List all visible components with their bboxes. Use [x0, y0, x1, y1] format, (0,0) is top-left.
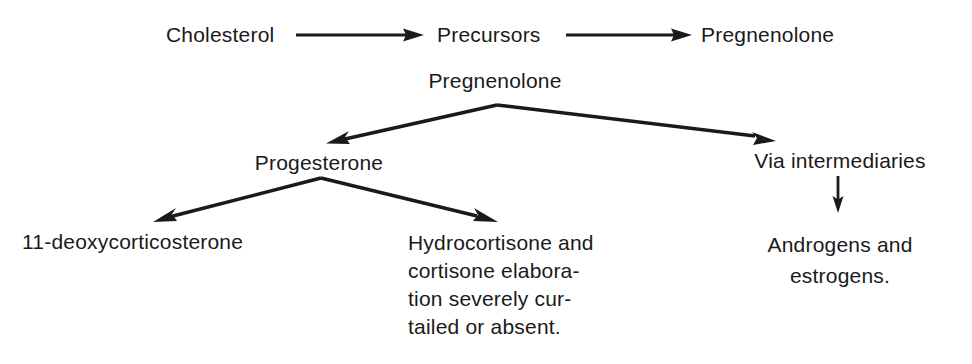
- steroidogenesis-diagram: Cholesterol Precursors Pregnenolone Preg…: [0, 0, 972, 364]
- hydrocortisone-line-2: cortisone elabora-: [408, 257, 594, 285]
- arrow-progesterone-to-deoxycorticosterone: [153, 178, 321, 222]
- arrow-precursors-to-pregnenolone: [566, 29, 692, 42]
- node-cholesterol[interactable]: Cholesterol: [166, 24, 274, 45]
- arrow-progesterone-to-hydrocortisone: [321, 178, 498, 222]
- androgens-line-2: estrogens.: [767, 260, 912, 291]
- node-hydrocortisone-block[interactable]: Hydrocortisone and cortisone elabora- ti…: [408, 229, 594, 341]
- node-precursors[interactable]: Precursors: [437, 24, 541, 45]
- node-deoxycorticosterone[interactable]: 11-deoxycorticosterone: [22, 231, 243, 252]
- hydrocortisone-line-3: tion severely cur-: [408, 285, 594, 313]
- arrow-pregnenolone-to-via-intermediaries: [497, 105, 776, 145]
- node-progesterone[interactable]: Progesterone: [255, 152, 383, 173]
- androgens-line-1: Androgens and: [767, 229, 912, 260]
- arrow-via-intermediaries-to-androgens: [833, 176, 844, 213]
- node-pregnenolone-main[interactable]: Pregnenolone: [428, 70, 561, 91]
- hydrocortisone-line-1: Hydrocortisone and: [408, 229, 594, 257]
- node-via-intermediaries[interactable]: Via intermediaries: [754, 150, 925, 171]
- arrow-cholesterol-to-precursors: [296, 29, 424, 42]
- node-pregnenolone-top[interactable]: Pregnenolone: [701, 24, 834, 45]
- node-androgens-block[interactable]: Androgens and estrogens.: [767, 229, 912, 291]
- arrow-pregnenolone-to-progesterone: [326, 105, 497, 144]
- hydrocortisone-line-4: tailed or absent.: [408, 313, 594, 341]
